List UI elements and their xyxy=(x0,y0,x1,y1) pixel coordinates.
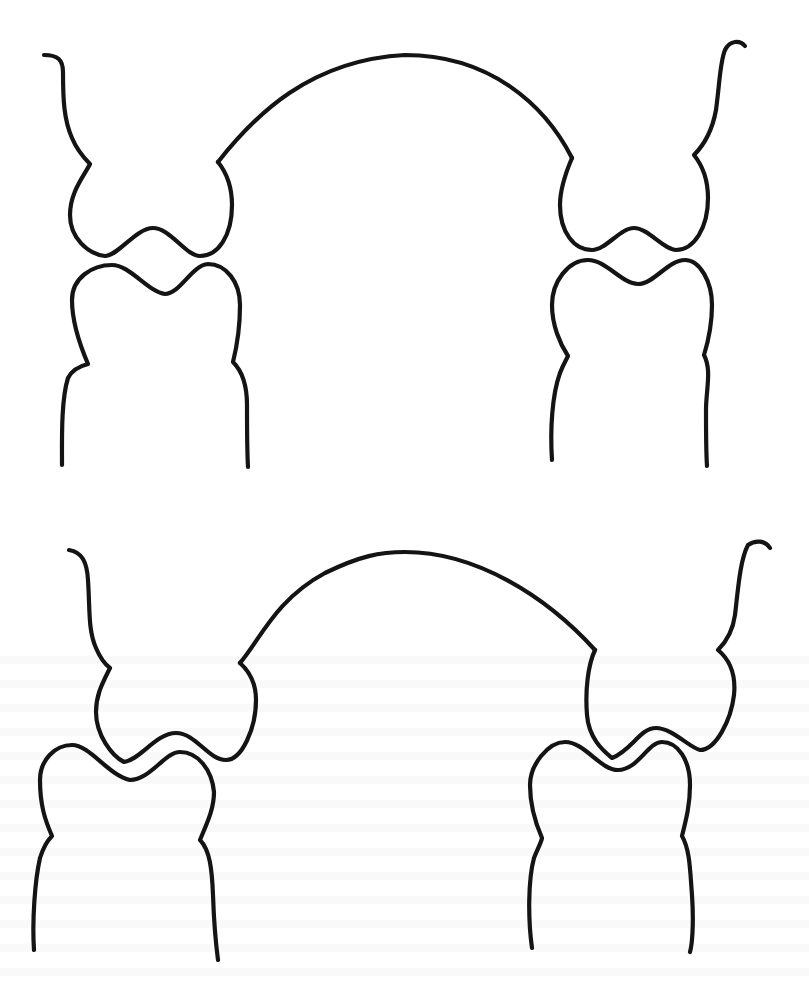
bottom-arch xyxy=(240,552,595,663)
top-panel xyxy=(44,42,745,467)
bottom-panel xyxy=(33,542,770,960)
bottom-lower-right-tooth xyxy=(529,742,693,952)
top-upper-left-tooth xyxy=(44,55,232,256)
top-arch xyxy=(218,55,572,162)
top-lower-left-tooth xyxy=(62,264,248,467)
bottom-upper-left-tooth xyxy=(69,550,256,762)
bottom-lower-left-tooth xyxy=(33,745,218,960)
dental-occlusion-figure xyxy=(0,0,809,986)
top-upper-right-tooth xyxy=(560,42,745,250)
bottom-upper-right-tooth xyxy=(586,542,770,758)
top-lower-right-tooth xyxy=(551,260,712,466)
